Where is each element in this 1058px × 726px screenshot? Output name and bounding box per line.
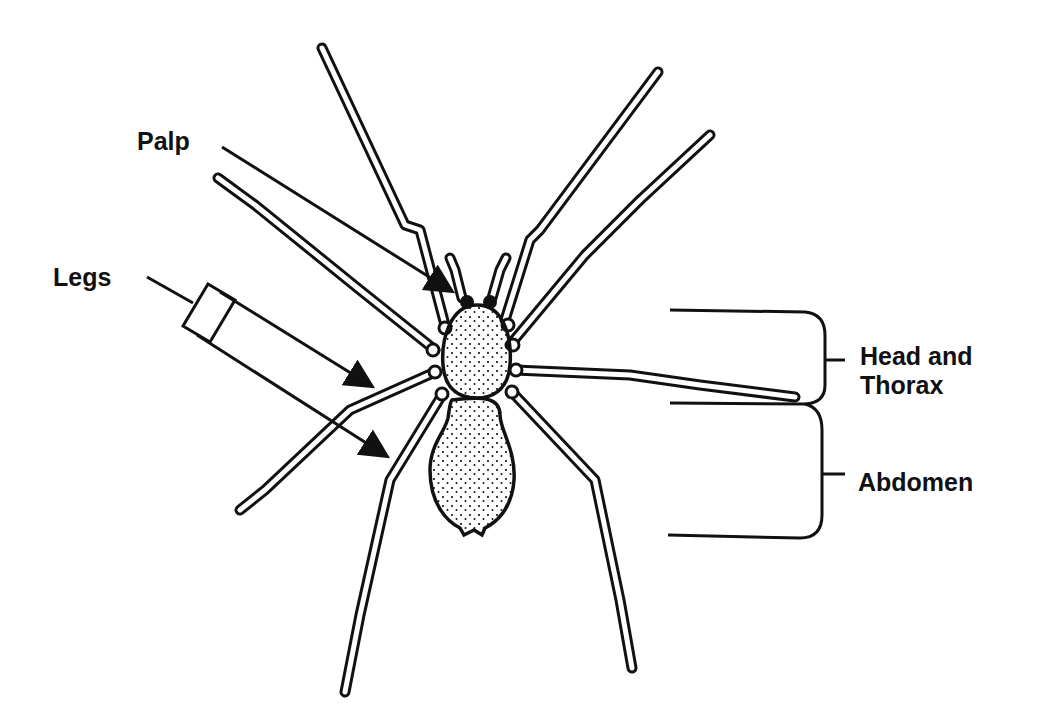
legs-label: Legs [53, 263, 111, 292]
palp-label: Palp [137, 127, 190, 156]
spider-diagram: Palp Legs Head and Thorax Abdomen [0, 0, 1058, 726]
abdomen-label: Abdomen [858, 468, 973, 497]
head-thorax-label-line2: Thorax [860, 371, 973, 400]
head-thorax-label: Head and Thorax [860, 342, 973, 400]
abdomen [430, 398, 514, 535]
body-brackets [668, 310, 845, 538]
palps [450, 258, 506, 298]
cephalothorax [443, 305, 511, 398]
head-thorax-label-line1: Head and [860, 342, 973, 371]
legs-pointer [147, 277, 385, 455]
